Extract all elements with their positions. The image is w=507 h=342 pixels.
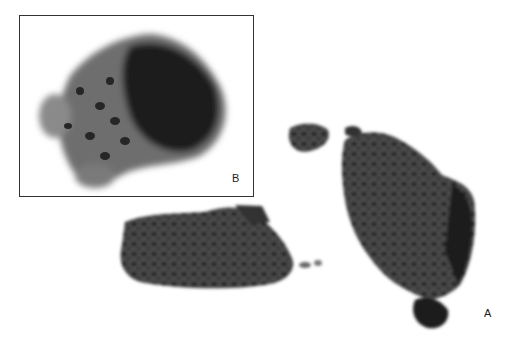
tissue-fragment-right xyxy=(289,124,475,329)
panel-label-b: B xyxy=(232,172,239,184)
panel-b-inset xyxy=(19,15,254,197)
tissue-fragment-left xyxy=(121,205,322,288)
panel-label-a: A xyxy=(484,307,492,319)
inset-micrograph xyxy=(20,16,253,196)
